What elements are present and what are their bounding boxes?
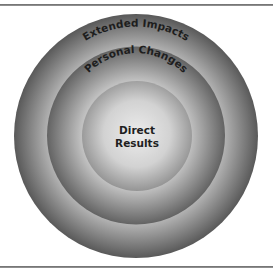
- circle-center-direct-results: [82, 81, 192, 191]
- label-direct: Direct: [119, 124, 155, 136]
- label-results: Results: [115, 137, 159, 149]
- concentric-circles-diagram: Extended Impacts Personal Changes Direct…: [0, 0, 273, 274]
